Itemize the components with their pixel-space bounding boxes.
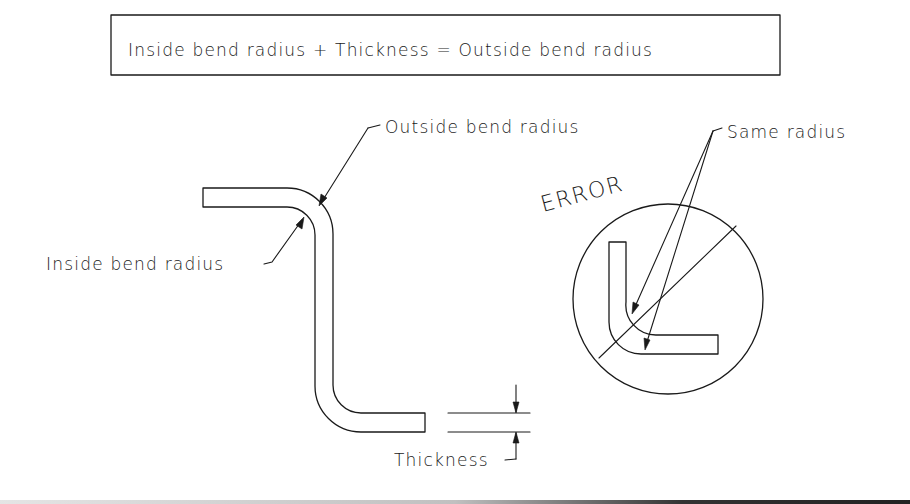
same-radius-leader-hook [713,128,722,131]
formula-box: Inside bend radius + Thickness = Outside… [111,15,780,75]
same-radius-label: Same radius [727,122,846,142]
same-radius-arrowhead-1-icon [632,302,639,314]
thickness-leader-hook [505,459,516,460]
formula-text: Inside bend radius + Thickness = Outside… [128,40,653,60]
error-strike-line [599,226,736,358]
bottom-edge-shadow [0,500,910,504]
bent-part [203,188,425,432]
thickness-arrow-bottom-icon [513,432,519,443]
bent-part-outer-contour [203,188,425,432]
same-radius-leader-1 [634,131,713,309]
thickness-dimension: Thickness [394,385,530,470]
same-radius-leader-2 [646,131,713,345]
outside-leader-line [321,128,368,203]
thickness-label: Thickness [394,450,489,470]
thickness-arrow-top-icon [513,402,519,413]
bend-radius-diagram: Inside bend radius + Thickness = Outside… [0,0,910,504]
inside-bend-radius-callout: Inside bend radius [46,217,304,274]
inside-leader-line [264,220,302,264]
error-title: ERROR [538,171,626,217]
same-radius-arrowhead-2-icon [644,338,650,350]
outside-leader-hook [368,125,380,128]
outside-bend-radius-label: Outside bend radius [385,117,580,137]
inside-bend-radius-label: Inside bend radius [46,254,224,274]
error-example: ERROR Same radius [538,122,847,394]
